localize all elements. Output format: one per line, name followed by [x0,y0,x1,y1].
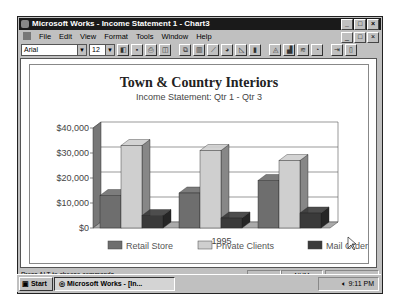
3d-pie-icon[interactable]: ◔ [311,44,323,56]
svg-text:Mail Order: Mail Order [326,241,368,251]
bar-chart-icon[interactable]: ▥ [193,44,205,56]
clock: 9:11 PM [348,280,374,287]
document-icon[interactable] [23,32,31,40]
menu-view[interactable]: View [80,31,96,42]
go-to-spreadsheet-icon[interactable]: ⇥ [331,44,343,56]
chart-area[interactable]: Town & Country Interiors Income Statemen… [29,64,369,264]
font-name-value: Arial [24,46,38,53]
bar-chart-plot: $0$10,000$20,000$30,000$40,0001995Retail… [30,65,368,263]
chart-window: Town & Country Interiors Income Statemen… [20,58,377,268]
works-icon: ◎ [59,280,67,287]
svg-text:$20,000: $20,000 [56,173,89,183]
print-preview-icon[interactable]: ◫ [159,44,171,56]
menu-tools[interactable]: Tools [136,31,154,42]
menu-window[interactable]: Window [161,31,188,42]
menu-bar: File Edit View Format Tools Window Help … [19,31,381,42]
start-label: Start [31,280,47,287]
menu-edit[interactable]: Edit [59,31,72,42]
taskbar-item-works[interactable]: ◎ Microsoft Works - [In... [54,277,175,291]
3d-bar-icon[interactable]: ▟ [283,44,295,56]
help-icon[interactable]: ▯ [345,44,357,56]
area-chart-icon[interactable]: ◺ [235,44,247,56]
copy-icon[interactable]: ⧉ [179,44,191,56]
chevron-down-icon[interactable]: ▼ [77,45,86,55]
window-title: Microsoft Works - Income Statement 1 - C… [32,19,210,28]
menu-format[interactable]: Format [104,31,128,42]
task-launcher-icon[interactable]: ◧ [117,44,129,56]
title-bar[interactable]: Microsoft Works - Income Statement 1 - C… [19,18,381,30]
toolbar: Arial ▼ 12 ▼ ◧ ▪ ⎙ ◫ ⧉ ▥ ⟋ ◕ ◺ ▮ ◬ ▟ ≋ ◔… [19,42,381,57]
font-size-select[interactable]: 12 ▼ [89,44,115,56]
start-button[interactable]: ▣ Start [19,277,53,291]
font-name-select[interactable]: Arial ▼ [21,44,87,56]
menu-file[interactable]: File [39,31,51,42]
print-icon[interactable]: ⎙ [145,44,157,56]
taskbar: ▣ Start ◎ Microsoft Works - [In... 🔈︎ 9:… [17,274,381,292]
maximize-button[interactable]: □ [354,19,366,30]
menu-help[interactable]: Help [196,31,211,42]
font-size-value: 12 [92,46,100,53]
app-icon [21,20,29,28]
task-label: Microsoft Works - [In... [67,280,142,287]
3d-area-icon[interactable]: ◬ [269,44,281,56]
svg-text:$30,000: $30,000 [56,148,89,158]
svg-text:$10,000: $10,000 [56,198,89,208]
close-button[interactable]: × [367,19,379,30]
save-icon[interactable]: ▪ [131,44,143,56]
app-window: Microsoft Works - Income Statement 1 - C… [17,16,383,294]
windows-logo-icon: ▣ [22,280,29,287]
line-chart-icon[interactable]: ⟋ [207,44,219,56]
system-tray: 🔈︎ 9:11 PM [318,277,379,291]
pie-chart-icon[interactable]: ◕ [221,44,233,56]
svg-text:$0: $0 [79,223,89,233]
svg-text:$40,000: $40,000 [56,123,89,133]
chevron-down-icon[interactable]: ▼ [105,45,114,55]
stacked-bar-icon[interactable]: ▮ [249,44,261,56]
svg-text:Private Clients: Private Clients [216,241,275,251]
svg-text:Retail Store: Retail Store [126,241,173,251]
3d-line-icon[interactable]: ≋ [297,44,309,56]
minimize-button[interactable]: _ [341,19,353,30]
